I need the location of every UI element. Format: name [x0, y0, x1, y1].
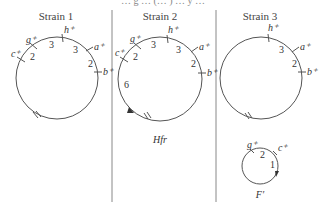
gene-label-b: b⁺	[207, 67, 218, 78]
gene-label-a: a⁺	[94, 41, 105, 52]
distance-c-g: 2	[133, 51, 138, 62]
gene-label-c: c⁺	[278, 142, 288, 153]
gene-label-c: c⁺	[115, 47, 125, 58]
gene-label-a: a⁺	[199, 41, 210, 52]
distance-a-b: 2	[88, 58, 93, 69]
strain-3-title: Strain 3	[243, 10, 278, 22]
gene-label-b: b⁺	[307, 66, 318, 77]
distance-arc: 1	[270, 159, 275, 170]
origin-arrow-icon	[127, 107, 134, 113]
f-prime-episome: g⁺ c⁺ 2 1 F′	[242, 139, 288, 200]
gene-label-a: a⁺	[300, 41, 311, 52]
f-prime-caption: F′	[255, 189, 265, 200]
gene-label-h: h⁺	[168, 24, 179, 35]
distance-h-a: 3	[279, 44, 284, 55]
strain-1-title: Strain 1	[39, 10, 74, 22]
gene-label-b: b⁺	[103, 66, 114, 77]
distance-g-h: 3	[151, 39, 156, 50]
gene-label-h: h⁺	[268, 22, 279, 33]
strain-1-chromosome: h⁺ g⁺ c⁺ a⁺ b⁺ 2 3 3 2	[11, 24, 114, 119]
gene-label-g: g⁺	[26, 34, 37, 45]
gene-label-g: g⁺	[247, 139, 258, 150]
distance-g-c: 2	[260, 149, 265, 160]
hfr-caption: Hfr	[152, 134, 167, 145]
distance-c-g: 2	[30, 51, 35, 62]
distance-h-a: 3	[176, 44, 181, 55]
strain-2-chromosome: h⁺ g⁺ c⁺ a⁺ b⁺ 2 3 3 2 6 Hfr	[115, 24, 218, 145]
distance-h-a: 3	[73, 44, 78, 55]
distance-a-b: 2	[292, 58, 297, 69]
strain-3-chromosome: h⁺ a⁺ b⁺ 3 2	[220, 22, 318, 119]
origin-arrow-icon	[275, 171, 279, 177]
conjugation-diagram: … g … (… ) … y … Strain 1 Strain 2 Strai…	[0, 0, 326, 205]
distance-arc: 6	[124, 79, 129, 90]
top-partial-text: … g … (… ) … y …	[121, 0, 205, 7]
gene-label-h: h⁺	[64, 24, 75, 35]
distance-g-h: 3	[49, 39, 54, 50]
distance-a-b: 2	[191, 58, 196, 69]
strain-2-title: Strain 2	[143, 10, 178, 22]
gene-label-g: g⁺	[130, 33, 141, 44]
gene-label-c: c⁺	[11, 48, 21, 59]
